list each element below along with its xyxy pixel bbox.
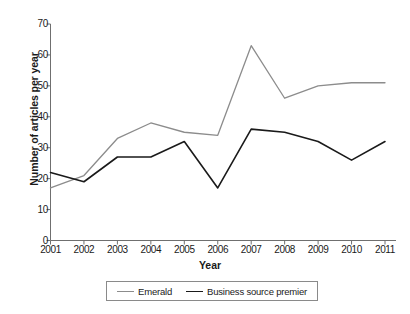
x-tick-label-2011: 2011 (365, 244, 405, 255)
legend-swatch-business-source-premier (186, 291, 203, 292)
x-axis-title: Year (0, 259, 410, 271)
line-chart-figure: Number of articles per year 010203040506… (0, 0, 410, 314)
legend-label-business-source-premier: Business source premier (207, 286, 307, 297)
x-axis-title-text: Year (189, 259, 221, 271)
chart-legend: Emerald Business source premier (106, 281, 318, 301)
legend-label-emerald: Emerald (138, 286, 172, 297)
legend-item-emerald: Emerald (117, 286, 172, 297)
legend-item-business-source-premier: Business source premier (186, 286, 307, 297)
legend-swatch-emerald (117, 291, 134, 292)
